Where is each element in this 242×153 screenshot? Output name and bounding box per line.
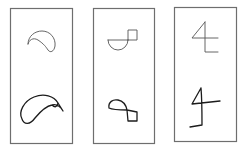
numeral-four-reproduction	[190, 88, 220, 127]
sketch-figure	[0, 0, 242, 153]
panel-2-frame	[94, 9, 155, 144]
teardrop-curve-template	[28, 31, 55, 52]
semicircle-with-square-template	[108, 30, 137, 50]
loop-with-square-reproduction	[109, 100, 137, 121]
panel-1	[11, 9, 73, 144]
panel-1-frame	[11, 9, 73, 144]
panel-3	[175, 8, 237, 142]
teardrop-curve-reproduction	[21, 95, 63, 123]
panel-3-frame	[175, 8, 237, 142]
numeral-four-template	[192, 22, 218, 52]
panel-2	[94, 9, 155, 144]
